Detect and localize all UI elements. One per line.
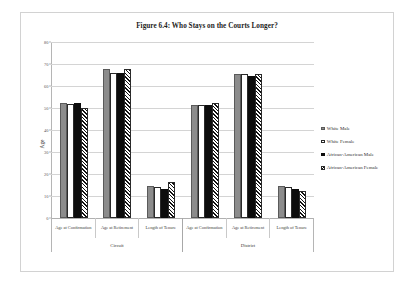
bar [124, 69, 131, 218]
legend-item[interactable]: African-American Female [321, 165, 395, 172]
group-axis: CircuitDistrict [51, 238, 314, 252]
legend-swatch-icon [321, 166, 325, 170]
y-tick-mark [49, 42, 51, 43]
bar [74, 103, 81, 218]
bar [161, 189, 168, 218]
y-tick-mark [49, 108, 51, 109]
y-tick-label: 20 [44, 172, 48, 177]
chart-title: Figure 6.4: Who Stays on the Courts Long… [21, 22, 393, 30]
bars-layer [52, 42, 314, 218]
bar [234, 74, 241, 218]
y-tick-mark [49, 174, 51, 175]
group-label: District [183, 238, 313, 252]
legend-swatch-icon [321, 127, 325, 131]
bar [110, 73, 117, 218]
category-label: Length of Tenure [139, 218, 183, 238]
bar [299, 191, 306, 218]
legend-item-label: African-American Female [327, 165, 378, 172]
bar-cluster-inner [139, 42, 183, 218]
legend-item-label: White Female [327, 139, 355, 146]
category-label: Length of Tenure [270, 218, 313, 238]
y-tick-mark [49, 152, 51, 153]
category-label: Age at Confirmation [52, 218, 96, 238]
bar [103, 69, 110, 218]
legend-item[interactable]: White Male [321, 126, 395, 133]
legend-item[interactable]: White Female [321, 139, 395, 146]
category-label: Age at Retirement [227, 218, 271, 238]
y-axis-title: Age [39, 129, 45, 159]
y-tick-label: 50 [44, 106, 48, 111]
bar [147, 186, 154, 218]
bar-cluster-inner [52, 42, 96, 218]
bar [67, 104, 74, 218]
y-tick-mark [49, 130, 51, 131]
bar-cluster [270, 42, 314, 218]
bar-cluster [139, 42, 183, 218]
bar [117, 73, 124, 218]
y-tick-label: 60 [44, 84, 48, 89]
y-tick-mark [49, 86, 51, 87]
bar [81, 108, 88, 218]
bar-cluster-inner [270, 42, 314, 218]
bar-cluster-inner [183, 42, 227, 218]
legend-item-label: White Male [327, 126, 350, 133]
bar-cluster [52, 42, 96, 218]
bar [285, 187, 292, 218]
category-axis: Age at ConfirmationAge at RetirementLeng… [51, 218, 314, 238]
legend-item[interactable]: African-American Male [321, 152, 395, 159]
y-tick-label: 0 [46, 216, 48, 221]
y-tick-mark [49, 64, 51, 65]
bar [248, 76, 255, 218]
bar-cluster [183, 42, 227, 218]
y-tick-label: 10 [44, 194, 48, 199]
legend-swatch-icon [321, 140, 325, 144]
category-label: Age at Retirement [96, 218, 140, 238]
group-label: Circuit [52, 238, 183, 252]
bar [191, 105, 198, 218]
bar [292, 189, 299, 218]
bar [241, 74, 248, 218]
y-tick-label: 80 [44, 40, 48, 45]
bar [198, 105, 205, 218]
bar-cluster-inner [96, 42, 140, 218]
figure-frame: Figure 6.4: Who Stays on the Courts Long… [20, 12, 394, 272]
y-tick-label: 40 [44, 128, 48, 133]
bar [212, 103, 219, 218]
chart-legend: White MaleWhite FemaleAfrican-American M… [321, 126, 395, 178]
bar [255, 74, 262, 218]
bar-cluster-inner [227, 42, 271, 218]
y-tick-mark [49, 196, 51, 197]
y-tick-label: 30 [44, 150, 48, 155]
legend-item-label: African-American Male [327, 152, 374, 159]
bar [154, 187, 161, 218]
y-tick-label: 70 [44, 62, 48, 67]
bar [278, 186, 285, 218]
plot-area: 01020304050607080 [51, 42, 314, 218]
bar-cluster [227, 42, 271, 218]
bar [205, 105, 212, 218]
bar [60, 103, 67, 218]
category-label: Age at Confirmation [183, 218, 227, 238]
bar-cluster [96, 42, 140, 218]
legend-swatch-icon [321, 153, 325, 157]
bar [168, 182, 175, 218]
